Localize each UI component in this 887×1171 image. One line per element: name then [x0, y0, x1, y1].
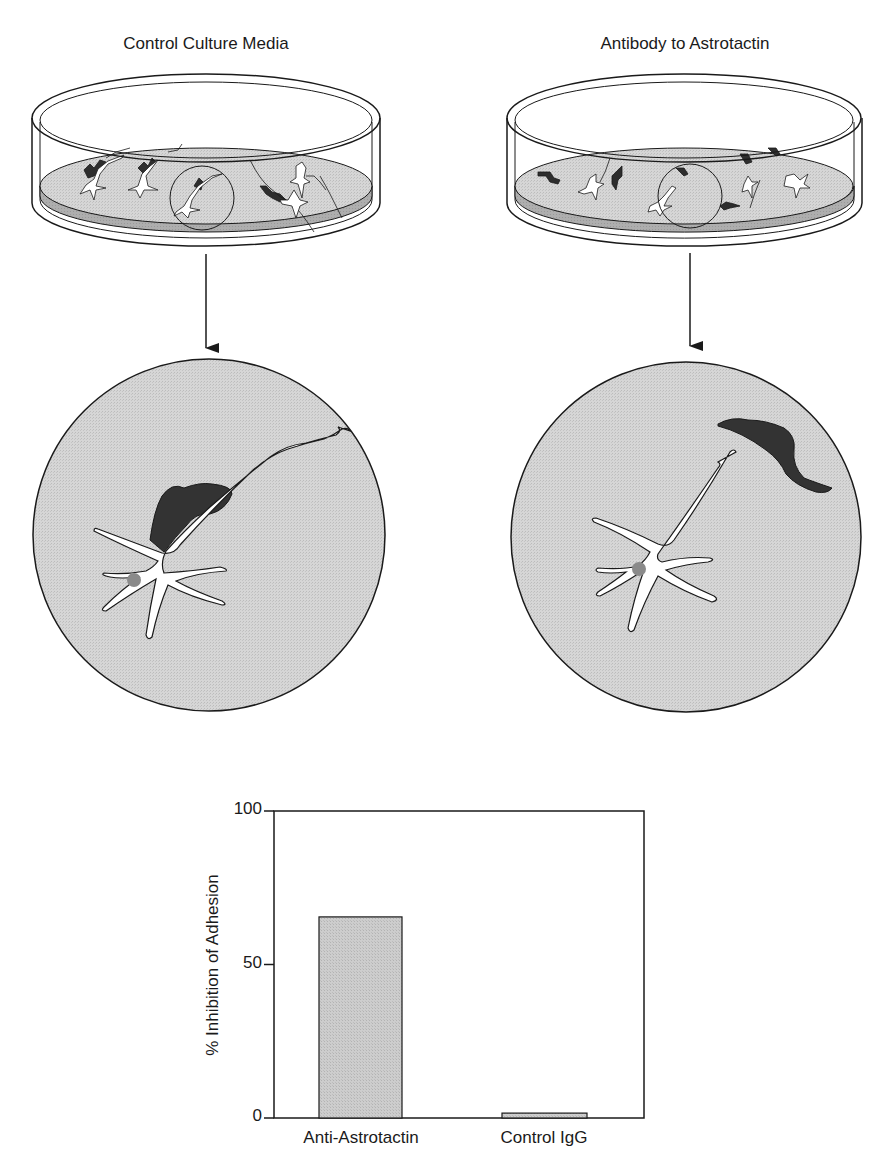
neuron-nucleus — [127, 573, 141, 587]
bar-chart — [264, 811, 644, 1118]
xcat-label-control-igg: Control IgG — [464, 1128, 624, 1148]
petri-dish-antibody — [507, 74, 862, 246]
neuron-nucleus — [632, 562, 646, 576]
xcat-label-anti-astrotactin: Anti-Astrotactin — [281, 1128, 441, 1148]
y-axis-label: % Inhibition of Adhesion — [203, 835, 223, 1095]
ytick-label-0: 0 — [222, 1106, 262, 1126]
magnified-view-control — [33, 359, 385, 711]
magnified-view-antibody — [511, 362, 861, 712]
bar-control-igg — [502, 1113, 587, 1118]
bar-anti-astrotactin — [319, 917, 402, 1118]
petri-dish-control — [32, 74, 380, 246]
ytick-label-100: 100 — [222, 799, 262, 819]
ytick-label-50: 50 — [222, 953, 262, 973]
